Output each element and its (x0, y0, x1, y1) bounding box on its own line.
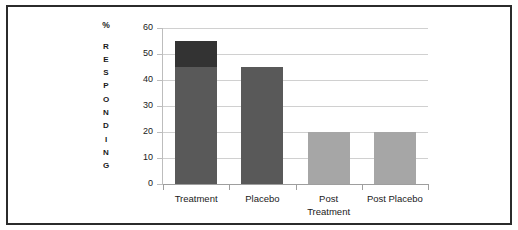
x-axis-tick-mark (229, 185, 230, 190)
y-axis-title: % RESPONDING (94, 21, 118, 189)
x-axis-label-line: Treatment (296, 206, 362, 219)
x-axis-tick-mark (296, 185, 297, 190)
y-axis-title-letter: O (94, 93, 118, 106)
bar (241, 67, 283, 184)
y-axis-title-letter: D (94, 119, 118, 132)
x-axis-label-line: Treatment (163, 193, 229, 206)
y-axis-title-stacked: RESPONDING (94, 40, 118, 173)
y-axis-tick-label: 30 (129, 100, 153, 110)
y-axis-title-letter: N (94, 106, 118, 119)
y-axis-tick-label: 60 (129, 22, 153, 32)
x-axis-label-line: Post Placebo (362, 193, 428, 206)
y-axis-title-letter: P (94, 79, 118, 92)
chart-figure: % RESPONDING 0102030405060 TreatmentPlac… (0, 0, 518, 230)
x-axis-category-label: Post Placebo (362, 193, 428, 206)
x-axis-label-line: Post (296, 193, 362, 206)
bar-segment (308, 132, 350, 184)
y-axis-percent-symbol: % (94, 21, 118, 31)
y-axis-title-letter: S (94, 66, 118, 79)
y-axis-title-letter: N (94, 146, 118, 159)
y-axis-title-letter: E (94, 53, 118, 66)
y-axis-title-letter: G (94, 159, 118, 172)
x-axis-category-label: Placebo (229, 193, 295, 206)
figure-border: % RESPONDING 0102030405060 TreatmentPlac… (6, 5, 512, 225)
plot-area (163, 28, 428, 184)
y-axis-tick-label: 40 (129, 74, 153, 84)
y-axis-title-letter: R (94, 40, 118, 53)
y-axis-tick-label: 50 (129, 48, 153, 58)
x-axis-category-label: Treatment (163, 193, 229, 206)
bar-segment (175, 67, 217, 184)
x-axis-tick-mark (362, 185, 363, 190)
y-axis-tick-label: 10 (129, 152, 153, 162)
gridline (163, 28, 428, 29)
y-axis-tick-label: 20 (129, 126, 153, 136)
x-axis-tick-mark (428, 185, 429, 190)
bar (374, 132, 416, 184)
bar-segment (374, 132, 416, 184)
bar (308, 132, 350, 184)
y-axis-tick-label: 0 (129, 178, 153, 188)
x-axis-label-line: Placebo (229, 193, 295, 206)
bar-segment (241, 67, 283, 184)
bar-segment (175, 41, 217, 67)
bar (175, 41, 217, 184)
x-axis-tick-mark (163, 185, 164, 190)
y-axis-title-letter: I (94, 133, 118, 146)
x-axis-category-label: PostTreatment (296, 193, 362, 218)
